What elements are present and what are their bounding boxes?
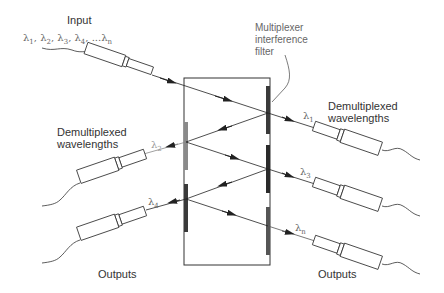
demux-label-right: Demultiplexed wavelengths <box>328 100 398 124</box>
input-collimator <box>84 42 154 76</box>
output-collimator-l2 <box>77 147 148 183</box>
output-collimator-l4 <box>77 204 148 240</box>
lambda-3-label: λ3 <box>300 166 311 180</box>
filter-right-1 <box>266 86 270 134</box>
lambda-4-label: λ4 <box>148 196 159 210</box>
filter-leader-line <box>272 55 290 102</box>
filter-left-2 <box>184 184 188 232</box>
input-label: Input <box>67 14 91 26</box>
output-collimator-ln <box>312 233 383 269</box>
output-collimator-l3 <box>312 175 383 211</box>
output-collimator-l1 <box>312 119 383 155</box>
input-fiber-cable <box>42 48 90 52</box>
lambda-n-label: λn <box>295 222 306 236</box>
outputs-label-left: Outputs <box>98 268 137 280</box>
filter-right-3 <box>266 207 270 255</box>
lambda-1-label: λ1 <box>303 110 314 124</box>
filter-label: Multiplexer interference filter <box>255 22 308 58</box>
input-wavelength-list: λ1, λ2, λ3, λ4, ...λn <box>23 32 112 46</box>
demux-label-left: Demultiplexed wavelengths <box>57 126 127 150</box>
filter-left-1 <box>184 122 188 170</box>
outputs-label-right: Outputs <box>318 268 357 280</box>
lambda-2-label: λ2 <box>151 139 162 153</box>
filter-block <box>184 78 270 265</box>
